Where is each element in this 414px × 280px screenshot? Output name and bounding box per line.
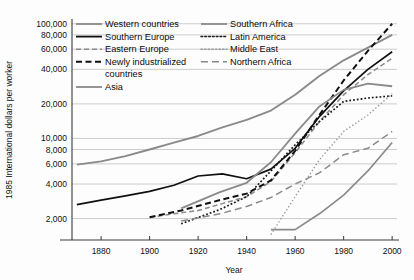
y-tick-label: 60,000 bbox=[41, 44, 67, 54]
x-axis-title: Year bbox=[225, 265, 242, 275]
y-tick-label: 20,000 bbox=[41, 99, 67, 109]
x-tick-label: 2000 bbox=[383, 246, 402, 256]
y-tick-label: 6,000 bbox=[46, 159, 68, 169]
legend-label: Newly industrialized bbox=[105, 57, 186, 67]
y-tick-label: 40,000 bbox=[41, 64, 67, 74]
legend-label: Latin America bbox=[230, 32, 287, 42]
x-tick-label: 1880 bbox=[92, 246, 111, 256]
legend-label: Northern Africa bbox=[230, 57, 292, 67]
x-tick-label: 1940 bbox=[237, 246, 256, 256]
y-tick-label: 100,000 bbox=[36, 19, 67, 29]
y-tick-label: 2,000 bbox=[46, 214, 68, 224]
y-tick-label: 4,000 bbox=[46, 179, 68, 189]
line-chart: 2,0004,0006,0008,00010,00020,00040,00060… bbox=[0, 0, 414, 280]
legend-label: countries bbox=[105, 69, 143, 79]
legend-label: Middle East bbox=[230, 44, 278, 54]
legend-label: Southern Europe bbox=[105, 32, 174, 42]
legend-label: Southern Africa bbox=[230, 19, 294, 29]
x-tick-label: 1900 bbox=[140, 246, 159, 256]
y-tick-label: 8,000 bbox=[46, 145, 68, 155]
y-tick-label: 80,000 bbox=[41, 30, 67, 40]
y-axis-title: 1985 International dollars per worker bbox=[4, 61, 14, 199]
legend-label: Western countries bbox=[105, 19, 179, 29]
x-tick-label: 1980 bbox=[334, 246, 353, 256]
legend-label: Asia bbox=[105, 82, 124, 92]
x-tick-label: 1920 bbox=[189, 246, 208, 256]
y-tick-label: 10,000 bbox=[41, 133, 67, 143]
x-tick-label: 1960 bbox=[286, 246, 305, 256]
legend-label: Eastern Europe bbox=[105, 44, 169, 54]
chart-figure: 2,0004,0006,0008,00010,00020,00040,00060… bbox=[0, 0, 414, 280]
